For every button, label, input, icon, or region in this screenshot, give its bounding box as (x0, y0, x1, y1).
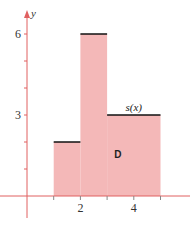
y-tick-label: 3 (15, 108, 21, 122)
y-axis-name: y (30, 7, 36, 19)
y-axis-arrow-icon (24, 10, 30, 18)
region-label: D (114, 149, 121, 160)
function-label: s(x) (126, 101, 143, 114)
step-function-chart: y2436s(x)D (0, 0, 190, 225)
x-tick-label: 4 (131, 201, 137, 215)
region-fill-1 (80, 34, 107, 196)
region-fill-0 (54, 142, 81, 196)
y-tick-label: 6 (15, 27, 21, 41)
x-tick-label: 2 (77, 201, 83, 215)
